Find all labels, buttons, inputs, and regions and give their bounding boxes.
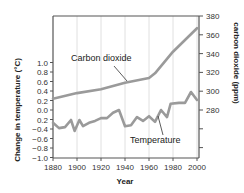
right-axis-title: carbon dioxide (ppm) — [232, 22, 241, 104]
left-y-axis-ticks: 1.00.80.60.40.20.00.2−0.4−0.6−0.8−1.0 — [32, 59, 53, 163]
left-tick-label: −0.8 — [32, 144, 48, 153]
left-axis-title: Change in temperature (°C) — [13, 58, 22, 162]
x-axis-ticks: 1880190019201940196019802000 — [44, 158, 206, 172]
left-tick-label: 0.2 — [37, 97, 49, 106]
left-tick-label: 0.4 — [37, 87, 49, 96]
x-tick-label: 2000 — [188, 163, 206, 172]
left-tick-label: −0.4 — [32, 125, 48, 134]
co2-annotation: Carbon dioxide — [71, 53, 132, 63]
right-tick-label: 360 — [206, 31, 220, 40]
left-tick-label: −1.0 — [32, 154, 48, 163]
right-tick-label: 380 — [206, 12, 220, 21]
left-tick-label: 0.6 — [37, 78, 49, 87]
right-tick-label: 340 — [206, 50, 220, 59]
right-tick-label: 280 — [206, 106, 220, 115]
x-tick-label: 1900 — [68, 163, 86, 172]
climate-chart: 1.00.80.60.40.20.00.2−0.4−0.6−0.8−1.0 38… — [0, 0, 244, 193]
left-tick-label: 0.8 — [37, 68, 49, 77]
right-tick-label: 320 — [206, 68, 220, 77]
left-tick-label: 1.0 — [37, 59, 49, 68]
x-tick-label: 1940 — [116, 163, 134, 172]
right-y-axis-ticks: 380360340320300280 — [199, 12, 220, 148]
x-tick-label: 1960 — [140, 163, 158, 172]
x-tick-label: 1980 — [164, 163, 182, 172]
left-tick-label: 0.0 — [37, 106, 49, 115]
x-axis-title: Year — [117, 177, 134, 186]
right-tick-label: 300 — [206, 87, 220, 96]
x-tick-label: 1920 — [92, 163, 110, 172]
temperature-annotation: Temperature — [130, 135, 181, 145]
x-tick-label: 1880 — [44, 163, 62, 172]
left-tick-label: 0.2 — [37, 116, 49, 125]
temperature-annotation-leader — [158, 116, 163, 135]
left-tick-label: −0.6 — [32, 135, 48, 144]
